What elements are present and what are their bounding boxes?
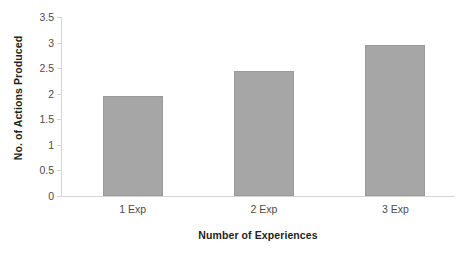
y-axis-tick-mark [57, 170, 61, 171]
y-axis-tick-label: 2.5 [39, 62, 54, 74]
y-axis-tick-mark [57, 68, 61, 69]
y-axis-tick-mark [57, 119, 61, 120]
y-axis-title: No. of Actions Produced [9, 0, 27, 196]
y-axis-line [61, 17, 62, 196]
x-axis-line [61, 196, 455, 197]
y-axis-tick-mark [57, 43, 61, 44]
x-axis-tick-label: 1 Exp [119, 203, 146, 215]
y-axis-tick-label: 1.5 [39, 113, 54, 125]
bar [234, 71, 294, 196]
y-axis-tick-label: 0 [48, 190, 54, 202]
x-axis-tick-label: 2 Exp [251, 203, 278, 215]
y-axis-tick-label: 0.5 [39, 164, 54, 176]
x-axis-tick-label: 3 Exp [382, 203, 409, 215]
bar [103, 96, 163, 196]
plot-area: 00.511.522.533.5 1 Exp2 Exp3 Exp [61, 17, 455, 196]
y-axis-tick-mark [57, 145, 61, 146]
y-axis-tick-label: 3 [48, 37, 54, 49]
bar-chart: No. of Actions Produced 00.511.522.533.5… [0, 0, 476, 253]
y-axis-tick-mark [57, 17, 61, 18]
y-axis-tick-label: 3.5 [39, 11, 54, 23]
bar [365, 45, 425, 196]
y-axis-tick-mark [57, 196, 61, 197]
x-axis-title: Number of Experiences [61, 229, 455, 241]
y-axis-tick-mark [57, 94, 61, 95]
y-axis-tick-label: 2 [48, 88, 54, 100]
y-axis-tick-label: 1 [48, 139, 54, 151]
